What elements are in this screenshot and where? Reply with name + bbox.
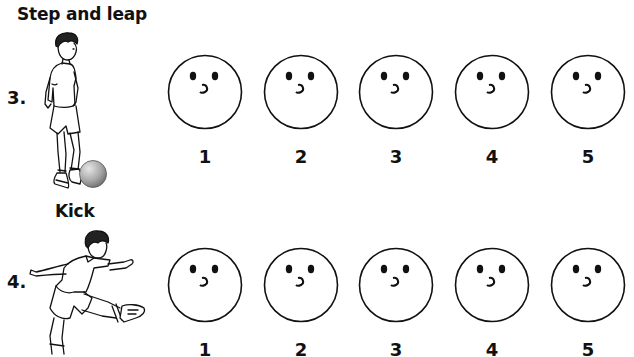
rating-label: 2 (261, 341, 341, 357)
item-title: Kick (55, 203, 95, 220)
ball (80, 161, 107, 188)
neutral-face-icon (550, 54, 626, 130)
rating-label: 1 (165, 341, 245, 357)
rating-option-5[interactable]: 5 (550, 54, 630, 130)
item-number: 3. (7, 89, 26, 107)
neutral-face-icon (263, 247, 339, 323)
neutral-face-icon (454, 247, 530, 323)
rating-label: 5 (548, 148, 628, 166)
rating-option-3[interactable]: 3 (358, 54, 438, 130)
neutral-face-icon (550, 247, 626, 323)
neutral-face-icon (263, 54, 339, 130)
rating-option-4[interactable]: 4 (454, 247, 534, 323)
neutral-face-icon (454, 54, 530, 130)
rating-label: 3 (356, 341, 436, 357)
rating-option-5[interactable]: 5 (550, 247, 630, 323)
rating-option-2[interactable]: 2 (263, 54, 343, 130)
rating-label: 3 (356, 148, 436, 166)
neutral-face-icon (358, 54, 434, 130)
rating-option-1[interactable]: 1 (167, 247, 247, 323)
rating-label: 4 (452, 341, 532, 357)
item-number: 4. (7, 273, 26, 291)
item-title: Step and leap (17, 6, 147, 23)
neutral-face-icon (358, 247, 434, 323)
boy-kicking-illustration (28, 228, 148, 357)
boy-stepping-over-ball-illustration (38, 30, 118, 192)
rating-label: 4 (452, 148, 532, 166)
neutral-face-icon (167, 247, 243, 323)
rating-option-3[interactable]: 3 (358, 247, 438, 323)
neutral-face-icon (167, 54, 243, 130)
rating-label: 1 (165, 148, 245, 166)
rating-label: 5 (548, 341, 628, 357)
rating-option-4[interactable]: 4 (454, 54, 534, 130)
rating-option-1[interactable]: 1 (167, 54, 247, 130)
rating-option-2[interactable]: 2 (263, 247, 343, 323)
rating-label: 2 (261, 148, 341, 166)
